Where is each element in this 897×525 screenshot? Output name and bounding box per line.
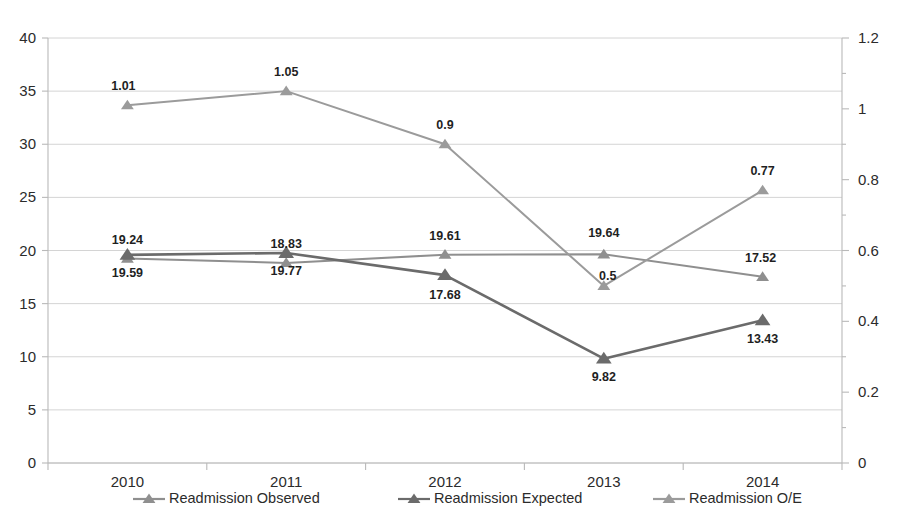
legend-label: Readmission Expected — [434, 490, 582, 506]
right-axis-tick-label: 0 — [858, 454, 866, 471]
data-label: 17.52 — [745, 251, 776, 265]
chart-legend: Readmission ObservedReadmission Expected… — [133, 490, 802, 506]
data-label: 19.59 — [112, 266, 143, 280]
legend-label: Readmission Observed — [169, 490, 320, 506]
data-label: 13.43 — [747, 332, 778, 346]
x-axis-category-label: 2010 — [111, 473, 144, 490]
right-axis-tick-label: 0.4 — [858, 312, 879, 329]
right-axis-tick-labels: 00.20.40.60.811.2 — [858, 29, 879, 471]
data-label: 19.77 — [271, 264, 302, 278]
x-axis-category-label: 2011 — [270, 473, 302, 490]
data-label: 1.01 — [111, 79, 135, 93]
chart-canvas: 0510152025303540 00.20.40.60.811.2 20102… — [0, 0, 897, 525]
right-axis-tick-label: 1.2 — [858, 29, 879, 46]
right-axis-ticks-group — [842, 38, 849, 463]
x-axis-tickmarks — [48, 463, 842, 470]
left-axis-tick-label: 30 — [19, 135, 36, 152]
left-axis-tick-label: 0 — [28, 454, 36, 471]
data-label: 1.05 — [274, 65, 298, 79]
data-labels-group: 19.2418.8319.6119.6417.5219.5919.7717.68… — [111, 65, 778, 384]
left-axis-tick-label: 10 — [19, 348, 36, 365]
data-label: 18.83 — [271, 237, 302, 251]
x-axis-category-label: 2013 — [587, 473, 620, 490]
left-axis-tick-label: 40 — [19, 29, 36, 46]
series-marker — [756, 185, 769, 195]
series-marker — [280, 86, 293, 96]
right-axis-tick-label: 0.2 — [858, 383, 879, 400]
series-marker — [755, 313, 771, 325]
data-label: 0.5 — [599, 269, 616, 283]
data-label: 19.64 — [588, 226, 619, 240]
data-label: 19.24 — [112, 233, 143, 247]
legend-label: Readmission O/E — [689, 490, 802, 506]
data-label: 19.61 — [429, 229, 460, 243]
right-axis-tick-label: 1 — [858, 100, 866, 117]
right-axis-tick-label: 0.8 — [858, 171, 879, 188]
left-axis-tick-label: 25 — [19, 188, 36, 205]
x-axis-category-labels: 20102011201220132014 — [111, 473, 780, 490]
x-axis-category-label: 2012 — [428, 473, 461, 490]
data-label: 0.77 — [750, 164, 774, 178]
data-label: 17.68 — [429, 288, 460, 302]
data-label: 0.9 — [436, 118, 453, 132]
left-axis-tick-label: 15 — [19, 295, 36, 312]
right-axis-tick-label: 0.6 — [858, 242, 879, 259]
data-label: 9.82 — [592, 370, 616, 384]
left-axis-tick-labels: 0510152025303540 — [19, 29, 36, 471]
left-axis-ticks-group — [42, 38, 48, 463]
left-axis-tick-label: 5 — [28, 401, 36, 418]
left-axis-tick-label: 35 — [19, 82, 36, 99]
left-axis-tick-label: 20 — [19, 242, 36, 259]
readmission-chart: 0510152025303540 00.20.40.60.811.2 20102… — [0, 0, 897, 525]
x-axis-category-label: 2014 — [746, 473, 779, 490]
